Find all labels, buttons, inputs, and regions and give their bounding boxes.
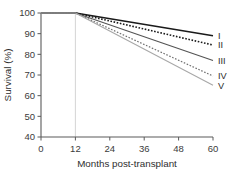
y-axis-title: Survival (%): [2, 49, 13, 102]
series-line-III: [41, 13, 213, 61]
y-tick-label: 40: [24, 131, 35, 142]
x-tick-label: 48: [173, 143, 184, 154]
series-line-V: [41, 13, 213, 85]
series-line-IV: [41, 13, 213, 76]
y-tick-label: 80: [24, 49, 35, 60]
x-tick-label: 36: [139, 143, 150, 154]
y-tick-label: 90: [24, 28, 35, 39]
survival-curve-chart: 40506070809010001224364860Months post-tr…: [0, 0, 243, 178]
y-tick-label: 100: [19, 7, 35, 18]
series-label-III: III: [218, 56, 226, 66]
series-label-V: V: [218, 81, 225, 91]
y-tick-label: 50: [24, 111, 35, 122]
y-tick-label: 70: [24, 69, 35, 80]
chart-canvas: 40506070809010001224364860Months post-tr…: [0, 0, 243, 178]
x-axis-title: Months post-transplant: [77, 158, 177, 169]
x-tick-label: 12: [70, 143, 81, 154]
y-tick-label: 60: [24, 90, 35, 101]
x-tick-label: 60: [208, 143, 219, 154]
x-tick-label: 0: [38, 143, 43, 154]
series-label-II: II: [218, 40, 223, 50]
x-tick-label: 24: [105, 143, 116, 154]
